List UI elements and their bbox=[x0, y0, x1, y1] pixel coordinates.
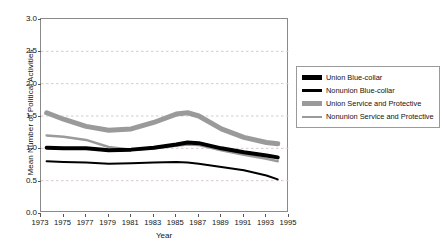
legend-line-sample bbox=[302, 101, 322, 106]
x-tick-label: 1975 bbox=[54, 218, 71, 227]
x-tick-label: 1981 bbox=[122, 218, 139, 227]
series-lines bbox=[47, 113, 278, 180]
legend-line-sample bbox=[302, 89, 322, 92]
y-tick-mark bbox=[38, 19, 41, 20]
x-tick-mark bbox=[220, 214, 221, 217]
x-tick-mark bbox=[265, 214, 266, 217]
x-tick-mark bbox=[198, 214, 199, 217]
legend-swatch-icon bbox=[302, 101, 322, 106]
legend-label: Union Blue-collar bbox=[326, 73, 382, 82]
x-tick-label: 1977 bbox=[77, 218, 94, 227]
x-tick-label: 1985 bbox=[167, 218, 184, 227]
legend-label: Union Service and Protective bbox=[326, 99, 421, 108]
x-tick-label: 1987 bbox=[189, 218, 206, 227]
legend-item[interactable]: Union Blue-collar bbox=[302, 71, 435, 84]
x-tick-container: 1973197519771979198119831985198719891991… bbox=[40, 214, 288, 228]
y-tick-mark bbox=[38, 116, 41, 117]
legend-swatch-icon bbox=[302, 75, 322, 80]
y-tick-label: 2.0 bbox=[26, 80, 37, 88]
y-tick-label: 1.5 bbox=[26, 112, 37, 120]
x-tick-label: 1979 bbox=[99, 218, 116, 227]
legend-swatch-icon bbox=[302, 89, 322, 92]
legend-item[interactable]: Nonunion Blue-collar bbox=[302, 84, 435, 97]
x-tick-label: 1973 bbox=[32, 218, 49, 227]
x-tick-label: 1983 bbox=[144, 218, 161, 227]
y-tick-label: 0.0 bbox=[26, 209, 37, 217]
series-line bbox=[47, 161, 278, 179]
x-tick-mark bbox=[108, 214, 109, 217]
legend-line-sample bbox=[302, 116, 322, 118]
x-tick-mark bbox=[153, 214, 154, 217]
y-tick-label: 3.0 bbox=[26, 15, 37, 23]
legend-item[interactable]: Union Service and Protective bbox=[302, 97, 435, 110]
legend-swatch-icon bbox=[302, 116, 322, 118]
y-tick-mark bbox=[38, 148, 41, 149]
plot-svg bbox=[41, 19, 289, 213]
x-tick-label: 1991 bbox=[234, 218, 251, 227]
legend-label: Nonunion Service and Protective bbox=[326, 112, 434, 121]
x-tick-mark bbox=[243, 214, 244, 217]
y-tick-mark bbox=[38, 51, 41, 52]
legend-line-sample bbox=[302, 75, 322, 80]
y-tick-mark bbox=[38, 84, 41, 85]
legend-label: Nonunion Blue-collar bbox=[326, 86, 395, 95]
x-tick-mark bbox=[175, 214, 176, 217]
y-tick-label: 0.5 bbox=[26, 177, 37, 185]
y-tick-label: 2.5 bbox=[26, 47, 37, 55]
plot-area: 0.00.51.01.52.02.53.0 bbox=[40, 18, 288, 212]
x-tick-mark bbox=[63, 214, 64, 217]
x-axis-title: Year bbox=[40, 231, 288, 240]
x-tick-label: 1995 bbox=[280, 218, 297, 227]
y-tick-label: 1.0 bbox=[26, 144, 37, 152]
x-tick-label: 1993 bbox=[257, 218, 274, 227]
legend-item[interactable]: Nonunion Service and Protective bbox=[302, 110, 435, 123]
chart-figure: Mean Number of Political Activities 0.00… bbox=[0, 0, 446, 248]
y-tick-mark bbox=[38, 181, 41, 182]
x-tick-label: 1989 bbox=[212, 218, 229, 227]
x-tick-mark bbox=[130, 214, 131, 217]
chart-legend: Union Blue-collarNonunion Blue-collarUni… bbox=[296, 66, 440, 128]
x-tick-mark bbox=[85, 214, 86, 217]
x-tick-mark bbox=[288, 214, 289, 217]
x-tick-mark bbox=[40, 214, 41, 217]
